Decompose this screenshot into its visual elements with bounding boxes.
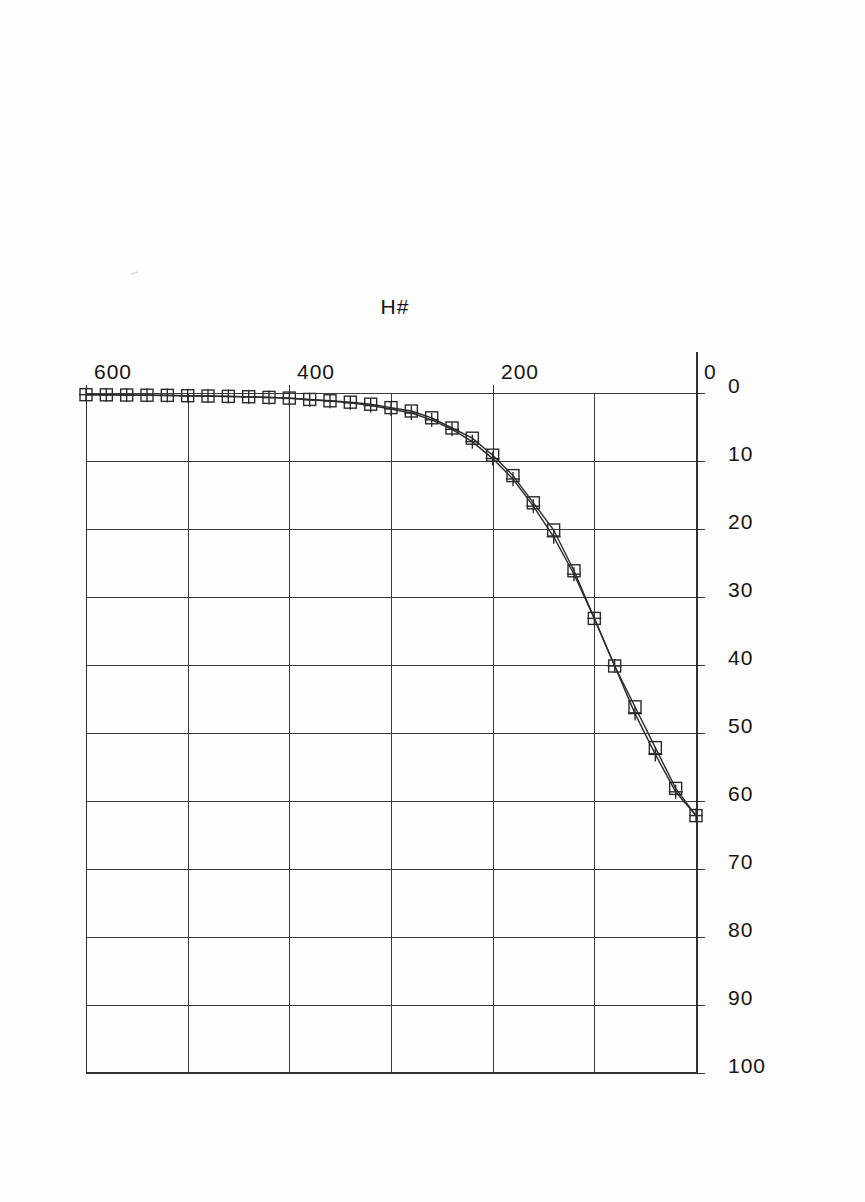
h-axis-tick bbox=[492, 385, 493, 394]
value-axis-tick-label: 0 bbox=[728, 374, 741, 398]
h-axis-tick-label: 600 bbox=[94, 360, 132, 384]
scanned-page: 01020304050607080901000200400600 H# bbox=[0, 0, 865, 1202]
series-layer bbox=[86, 394, 696, 1074]
value-axis-tick-label: 30 bbox=[728, 578, 753, 602]
value-axis-tick-label: 20 bbox=[728, 510, 753, 534]
value-axis-tick-label: 70 bbox=[728, 850, 753, 874]
value-axis-tick-label: 80 bbox=[728, 918, 753, 942]
series-line-1 bbox=[86, 395, 696, 816]
value-axis-tick-label: 10 bbox=[728, 442, 753, 466]
value-axis-tick-label: 50 bbox=[728, 714, 753, 738]
series-line-2 bbox=[86, 395, 696, 816]
h-axis-tick-label: 0 bbox=[704, 360, 717, 384]
value-axis-tick-label: 60 bbox=[728, 782, 753, 806]
value-axis-tick-label: 100 bbox=[728, 1054, 766, 1078]
plot-area: 01020304050607080901000200400600 bbox=[86, 394, 696, 1074]
value-axis-tick-label: 90 bbox=[728, 986, 753, 1010]
value-axis-tick-label: 40 bbox=[728, 646, 753, 670]
h-axis-tick-label: 400 bbox=[297, 360, 335, 384]
chart-figure: 01020304050607080901000200400600 H# bbox=[38, 36, 828, 1166]
x-axis-title: H# bbox=[380, 295, 409, 319]
h-axis-tick-label: 200 bbox=[500, 360, 538, 384]
